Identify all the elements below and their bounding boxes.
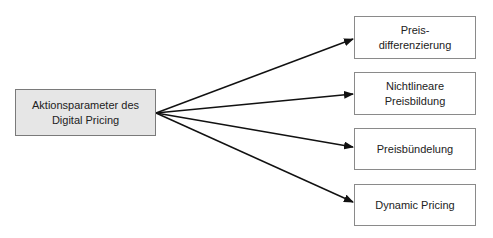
target-label-line1: Dynamic Pricing (375, 198, 454, 213)
target-label-line2: Preisbildung (385, 94, 446, 109)
target-node-preisdifferenzierung: Preis- differenzierung (354, 16, 476, 59)
target-node-dynamic-pricing: Dynamic Pricing (354, 184, 476, 226)
target-label-line1: Preisbündelung (377, 142, 453, 157)
target-node-preisbuendelung: Preisbündelung (354, 128, 476, 170)
arrow-to-nichtlineare-preisbildung (156, 94, 353, 113)
arrow-to-preisbuendelung (156, 113, 353, 147)
target-node-nichtlineare-preisbildung: Nichtlineare Preisbildung (354, 72, 476, 115)
target-label-line2: differenzierung (379, 38, 452, 53)
target-label-line1: Preis- (379, 23, 452, 38)
source-label-line2: Digital Pricing (32, 113, 139, 128)
source-node: Aktionsparameter des Digital Pricing (15, 89, 156, 136)
arrow-to-preisdifferenzierung (156, 39, 353, 113)
arrow-to-dynamic-pricing (156, 113, 353, 202)
target-label-line1: Nichtlineare (385, 79, 446, 94)
source-label-line1: Aktionsparameter des (32, 98, 139, 113)
